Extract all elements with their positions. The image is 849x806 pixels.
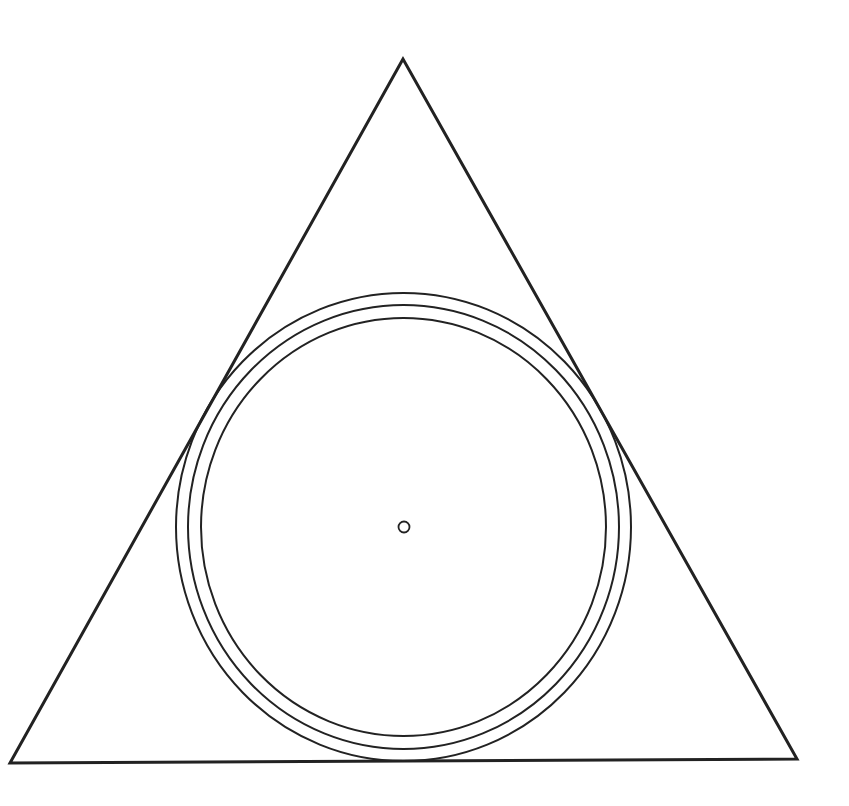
center-point	[399, 522, 410, 533]
background	[0, 0, 849, 806]
geometry-diagram	[0, 0, 849, 806]
